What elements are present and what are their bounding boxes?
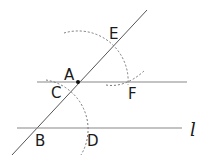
label-l: l	[190, 119, 196, 140]
label-d: D	[87, 132, 99, 150]
label-c: C	[51, 84, 61, 102]
label-a: A	[64, 66, 75, 84]
label-e: E	[109, 25, 118, 43]
point-a-dot	[76, 80, 80, 84]
label-b: B	[35, 132, 45, 150]
arc-at-f	[106, 71, 144, 85]
label-f: F	[128, 85, 137, 103]
construction-diagram: A C E F B D l	[0, 0, 210, 163]
